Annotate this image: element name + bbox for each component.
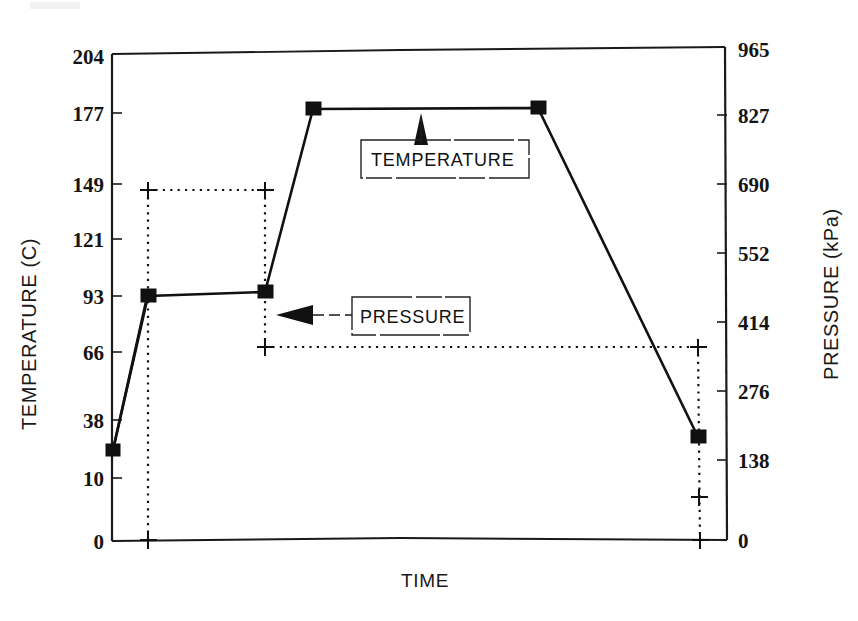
right-tick-276: 276 [738, 380, 770, 404]
right-tick-138: 138 [738, 449, 770, 473]
pressure-marker-plus [692, 532, 709, 549]
temperature-marker-square [306, 102, 321, 115]
pressure-marker-plus [257, 339, 274, 356]
chart-figure: 204 177 149 121 93 66 38 10 0 965 827 69… [0, 0, 858, 621]
right-tick-690: 690 [738, 173, 770, 197]
pressure-annotation-label: PRESSURE [360, 307, 465, 327]
left-axis-ticks [112, 113, 122, 478]
left-tick-93: 93 [83, 285, 104, 309]
temperature-marker-square [531, 101, 546, 114]
x-axis-title-time: TIME [401, 570, 449, 591]
left-tick-121: 121 [73, 228, 105, 252]
left-tick-204: 204 [73, 45, 105, 69]
pressure-marker-plus [140, 532, 157, 549]
temperature-annotation-label: TEMPERATURE [371, 150, 514, 170]
left-tick-66: 66 [83, 341, 104, 365]
temperature-marker-square [258, 285, 273, 298]
left-tick-labels: 204 177 149 121 93 66 38 10 0 [73, 45, 105, 554]
left-tick-149: 149 [73, 173, 105, 197]
pressure-annotation: PRESSURE [276, 297, 470, 335]
pressure-marker-plus [690, 339, 707, 356]
left-tick-10: 10 [83, 467, 104, 491]
pressure-curve [148, 190, 700, 540]
left-tick-0: 0 [94, 530, 105, 554]
right-tick-414: 414 [738, 311, 770, 335]
pressure-marker-plus [140, 182, 157, 199]
pressure-marker-plus [691, 489, 708, 506]
temperature-annotation: TEMPERATURE [361, 113, 529, 178]
left-tick-38: 38 [83, 409, 104, 433]
right-tick-0: 0 [738, 529, 749, 553]
temperature-marker-square [141, 289, 156, 302]
scan-artifact [30, 2, 80, 9]
pressure-marker-plus [257, 182, 274, 199]
left-tick-177: 177 [73, 102, 105, 126]
right-tick-827: 827 [738, 104, 770, 128]
pressure-markers [140, 182, 709, 549]
chart-canvas: 204 177 149 121 93 66 38 10 0 965 827 69… [0, 0, 858, 621]
pressure-arrow-icon [276, 305, 313, 325]
y-axis-title-temperature: TEMPERATURE (C) [18, 238, 40, 430]
temperature-marker-square [691, 430, 706, 443]
right-tick-965: 965 [738, 38, 770, 62]
right-tick-labels: 965 827 690 552 414 276 138 0 [738, 38, 770, 553]
right-tick-552: 552 [738, 242, 770, 266]
temperature-marker-square [106, 444, 120, 456]
y-axis-title-pressure: PRESSURE (kPa) [820, 208, 842, 380]
